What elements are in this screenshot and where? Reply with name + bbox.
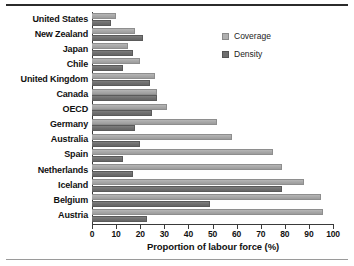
top-divider [6,4,348,6]
bar-density [92,186,282,192]
bar-coverage [92,209,323,215]
x-axis-tick-label: 60 [225,229,249,239]
bar-density [92,80,150,86]
bar-coverage [92,13,116,19]
y-axis-label: Chile [0,59,88,69]
y-axis-label: Netherlands [0,165,88,175]
bar-coverage [92,149,273,155]
bar-density [92,110,152,116]
bar-density [92,35,143,41]
legend-label-coverage: Coverage [234,31,271,41]
y-axis-label: OECD [0,104,88,114]
x-axis-tick-label: 40 [176,229,200,239]
y-axis-label: Japan [0,44,88,54]
chart-legend: Coverage Density [222,31,271,67]
bar-coverage [92,134,232,140]
x-axis-tick-label: 80 [273,229,297,239]
bar-density [92,201,210,207]
x-axis-tick-label: 100 [321,229,345,239]
y-axis-label: Australia [0,134,88,144]
bar-density [92,65,123,71]
x-axis-tick-label: 20 [128,229,152,239]
y-axis-label: Iceland [0,180,88,190]
bottom-divider [6,259,348,260]
bar-coverage [92,179,304,185]
chart-figure: United StatesNew ZealandJapanChileUnited… [0,0,354,266]
bar-coverage [92,28,135,34]
y-axis-label: United States [0,14,88,24]
y-axis-label: Germany [0,119,88,129]
y-axis-label: United Kingdom [0,74,88,84]
bar-density [92,20,111,26]
y-axis-label: Austria [0,210,88,220]
bar-density [92,156,123,162]
bar-coverage [92,119,217,125]
bar-coverage [92,104,167,110]
x-axis-tick-label: 70 [249,229,273,239]
legend-swatch-density [222,51,229,58]
legend-swatch-coverage [222,33,229,40]
y-axis-label: Belgium [0,195,88,205]
y-axis-label: Canada [0,89,88,99]
x-axis-tick-label: 10 [104,229,128,239]
bar-coverage [92,73,155,79]
bar-density [92,141,140,147]
y-axis-label: Spain [0,149,88,159]
x-axis-title: Proportion of labour force (%) [92,241,334,252]
bar-density [92,95,157,101]
y-axis-label: New Zealand [0,29,88,39]
bar-coverage [92,43,128,49]
bar-density [92,171,133,177]
bar-density [92,125,135,131]
x-axis-tick-label: 90 [297,229,321,239]
x-axis-tick-label: 50 [201,229,225,239]
bar-coverage [92,194,321,200]
legend-item-density: Density [222,49,271,59]
x-axis-tick-label: 30 [152,229,176,239]
bar-density [92,216,147,222]
legend-label-density: Density [234,49,262,59]
bar-coverage [92,89,157,95]
bar-density [92,50,133,56]
bar-coverage [92,164,282,170]
legend-item-coverage: Coverage [222,31,271,41]
bar-coverage [92,58,140,64]
x-axis-tick-label: 0 [80,229,104,239]
